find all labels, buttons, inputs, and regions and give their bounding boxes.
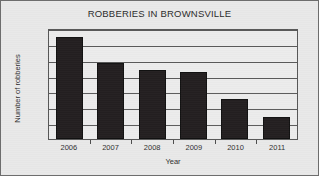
bars-layer <box>49 30 297 139</box>
bar-2008 <box>139 70 166 139</box>
x-tick-mark <box>173 140 174 144</box>
y-tick-mark <box>0 92 1 93</box>
x-tick-label: 2008 <box>131 143 173 152</box>
bar-slot <box>173 30 214 139</box>
y-tick-mark <box>0 60 1 61</box>
y-tick-mark <box>0 124 1 125</box>
bar-2006 <box>56 37 83 139</box>
y-tick-mark <box>0 29 1 30</box>
y-tick-mark <box>0 44 1 45</box>
bar-2011 <box>263 117 290 139</box>
y-tick-mark <box>0 140 1 141</box>
x-tick-mark <box>90 140 91 144</box>
chart-title: ROBBERIES IN BROWNSVILLE <box>1 8 318 19</box>
x-tick-mark <box>131 140 132 144</box>
x-tick-mark <box>256 140 257 144</box>
x-tick-label: 2009 <box>173 143 215 152</box>
x-tick-label: 2007 <box>90 143 132 152</box>
y-tick-mark <box>0 76 1 77</box>
plot-area <box>48 29 298 140</box>
y-tick-mark <box>0 108 1 109</box>
y-axis: Number of robberies 020406080100120140 <box>1 1 48 176</box>
bar-2009 <box>180 72 207 139</box>
x-tick-label: 2011 <box>256 143 298 152</box>
chart-figure: ROBBERIES IN BROWNSVILLE Number of robbe… <box>0 0 319 176</box>
bar-slot <box>132 30 173 139</box>
bar-slot <box>256 30 297 139</box>
bar-2010 <box>221 99 248 139</box>
x-tick-label: 2010 <box>215 143 257 152</box>
x-tick-mark <box>215 140 216 144</box>
x-axis-title: Year <box>48 157 298 166</box>
y-axis-title: Number of robberies <box>13 43 22 135</box>
x-tick-label: 2006 <box>48 143 90 152</box>
bar-slot <box>49 30 90 139</box>
bar-slot <box>214 30 255 139</box>
bar-slot <box>90 30 131 139</box>
bar-2007 <box>97 63 124 139</box>
